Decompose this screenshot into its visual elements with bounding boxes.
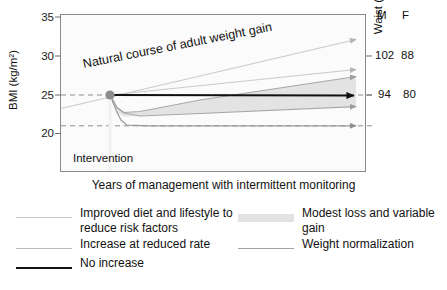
right-axis-value-female-80: 80 xyxy=(403,89,416,101)
legend-column-left: Improved diet and lifestyle to reduce ri… xyxy=(16,206,246,275)
ytick-label-35: 35 xyxy=(22,11,54,23)
series-no-increase xyxy=(110,95,354,96)
ytick-label-30: 30 xyxy=(22,50,54,62)
ytick-label-20: 20 xyxy=(22,127,54,139)
legend-swatch-no-increase xyxy=(16,263,72,273)
legend-item-no-increase: No increase xyxy=(16,256,246,273)
legend-item-modest-loss: Modest loss and variable gain xyxy=(238,206,447,235)
legend-swatch-modest-loss xyxy=(238,213,294,223)
legend-column-right: Modest loss and variable gain Weight nor… xyxy=(238,206,447,256)
y-axis-label-left: BMI (kg/m²) xyxy=(7,20,19,140)
annotation-intervention: Intervention xyxy=(73,152,133,164)
legend-swatch-weight-normalization xyxy=(238,244,294,254)
chart-page: 35 30 25 20 BMI (kg/m²) M F 102 88 94 80… xyxy=(0,0,447,290)
legend-item-improved-diet: Improved diet and lifestyle to reduce ri… xyxy=(16,206,246,235)
legend-swatch-improved-diet xyxy=(16,213,72,223)
legend-label-modest-loss: Modest loss and variable gain xyxy=(302,206,447,235)
legend: Improved diet and lifestyle to reduce ri… xyxy=(0,206,447,290)
ytick-label-25: 25 xyxy=(22,89,54,101)
legend-label-no-increase: No increase xyxy=(80,256,144,271)
right-axis-header-female: F xyxy=(402,10,409,22)
chart-container: 35 30 25 20 BMI (kg/m²) M F 102 88 94 80… xyxy=(0,0,447,200)
x-axis-label: Years of management with intermittent mo… xyxy=(0,178,447,192)
y-axis-label-right: Waist (cm) xyxy=(372,0,384,62)
legend-label-improved-diet: Improved diet and lifestyle to reduce ri… xyxy=(80,206,246,235)
legend-swatch-increase-reduced-rate xyxy=(16,244,72,254)
right-axis-value-male-94: 94 xyxy=(378,89,391,101)
intervention-marker xyxy=(105,90,114,99)
legend-label-increase-reduced-rate: Increase at reduced rate xyxy=(80,237,210,252)
legend-label-weight-normalization: Weight normalization xyxy=(302,237,414,252)
legend-item-increase-reduced-rate: Increase at reduced rate xyxy=(16,237,246,254)
right-axis-value-female-88: 88 xyxy=(401,50,414,62)
legend-item-weight-normalization: Weight normalization xyxy=(238,237,447,254)
